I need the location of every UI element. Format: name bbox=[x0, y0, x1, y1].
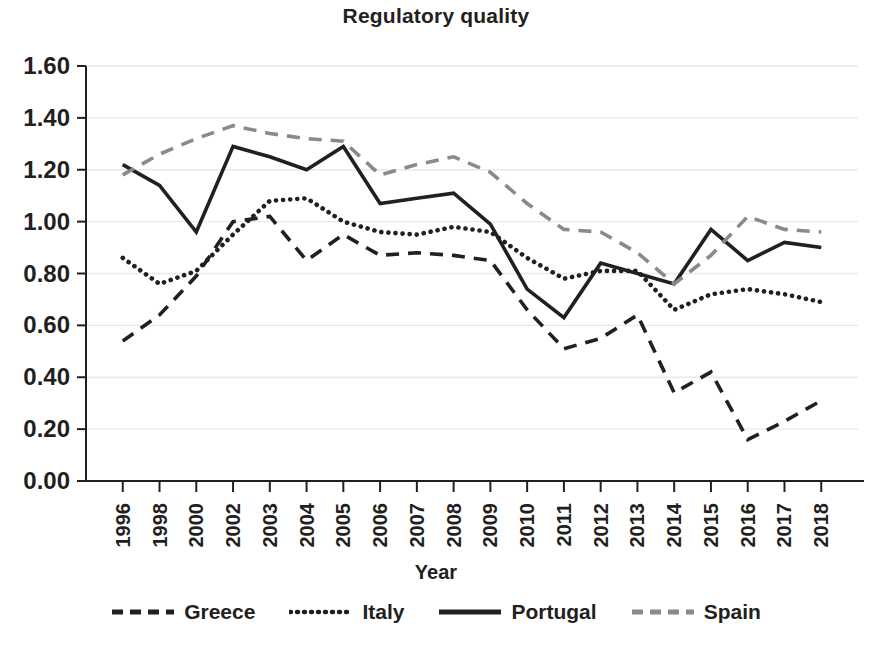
legend-item-spain[interactable]: Spain bbox=[631, 600, 761, 624]
legend-swatch-greece bbox=[111, 605, 175, 619]
y-axis-tick-label: 0.00 bbox=[23, 467, 70, 494]
y-axis-tick-label: 1.60 bbox=[23, 52, 70, 79]
x-axis-labels-group: 1996199820002002200320042005200620072008… bbox=[112, 502, 832, 547]
x-axis-title: Year bbox=[0, 561, 872, 584]
chart-figure: Regulatory quality 1.601.401.201.000.800… bbox=[0, 0, 872, 654]
x-axis-tick-label: 2008 bbox=[443, 503, 465, 548]
y-axis-labels-group: 1.601.401.201.000.800.600.400.200.00 bbox=[23, 52, 70, 494]
y-axis-tick-label: 1.20 bbox=[23, 156, 70, 183]
x-axis-tick-label: 2010 bbox=[516, 503, 538, 548]
x-axis-tick-label: 2005 bbox=[332, 503, 354, 548]
x-axis-tick-label: 1996 bbox=[112, 503, 134, 548]
legend-item-portugal[interactable]: Portugal bbox=[438, 600, 596, 624]
x-axis-tick-label: 2016 bbox=[737, 503, 759, 548]
x-axis-tick-label: 2013 bbox=[626, 503, 648, 548]
legend-label-greece: Greece bbox=[184, 600, 255, 624]
x-axis-tick-label: 1998 bbox=[149, 503, 171, 548]
x-axis-tick-label: 2014 bbox=[663, 502, 685, 547]
x-axis-tick-label: 2002 bbox=[222, 503, 244, 548]
line-chart-plot: 1.601.401.201.000.800.600.400.200.00 199… bbox=[0, 0, 872, 600]
y-axis-ticks-group bbox=[77, 66, 86, 481]
legend-item-greece[interactable]: Greece bbox=[111, 600, 255, 624]
x-axis-tick-label: 2004 bbox=[296, 502, 318, 547]
x-axis-tick-label: 2015 bbox=[700, 503, 722, 548]
x-axis-tick-label: 2006 bbox=[369, 503, 391, 548]
chart-legend: Greece Italy Portugal Spain bbox=[0, 600, 872, 624]
y-axis-tick-label: 0.20 bbox=[23, 415, 70, 442]
x-axis-tick-label: 2007 bbox=[406, 503, 428, 548]
y-axis-tick-label: 0.60 bbox=[23, 311, 70, 338]
x-axis-tick-label: 2011 bbox=[553, 503, 575, 546]
series-line-spain bbox=[123, 126, 821, 284]
legend-item-italy[interactable]: Italy bbox=[289, 600, 404, 624]
x-axis-tick-label: 2012 bbox=[590, 503, 612, 548]
x-axis-tick-label: 2003 bbox=[259, 503, 281, 548]
gridlines-group bbox=[86, 66, 858, 429]
x-axis-tick-label: 2018 bbox=[810, 503, 832, 548]
legend-label-portugal: Portugal bbox=[511, 600, 596, 624]
y-axis-tick-label: 1.00 bbox=[23, 208, 70, 235]
legend-label-italy: Italy bbox=[362, 600, 404, 624]
x-axis-tick-label: 2009 bbox=[479, 503, 501, 548]
legend-label-spain: Spain bbox=[704, 600, 761, 624]
x-axis-tick-label: 2000 bbox=[185, 503, 207, 548]
data-series-group bbox=[123, 126, 821, 440]
series-line-portugal bbox=[123, 146, 821, 317]
y-axis-tick-label: 0.80 bbox=[23, 260, 70, 287]
legend-swatch-italy bbox=[289, 605, 353, 619]
x-axis-tick-label: 2017 bbox=[773, 503, 795, 548]
y-axis-tick-label: 0.40 bbox=[23, 363, 70, 390]
series-line-italy bbox=[123, 198, 821, 310]
legend-swatch-spain bbox=[631, 605, 695, 619]
y-axis-tick-label: 1.40 bbox=[23, 104, 70, 131]
legend-swatch-portugal bbox=[438, 605, 502, 619]
x-axis-ticks-group bbox=[123, 481, 821, 492]
